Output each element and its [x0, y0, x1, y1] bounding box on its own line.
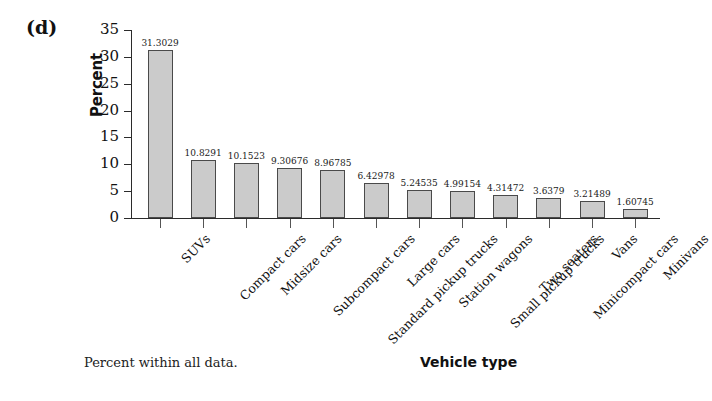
y-axis-tick: 25 — [124, 84, 131, 85]
bar-value-label: 1.60745 — [605, 197, 665, 207]
bar[interactable] — [407, 190, 432, 218]
x-axis-tick — [160, 219, 161, 228]
y-axis-tick-label: 25 — [100, 74, 119, 92]
bar-value-label: 8.96785 — [303, 158, 363, 168]
bar[interactable] — [148, 50, 173, 218]
bar-value-label: 31.3029 — [130, 38, 190, 48]
x-axis-tick — [203, 219, 204, 228]
x-axis-tick — [592, 219, 593, 228]
x-axis-line — [131, 218, 660, 219]
y-axis-tick: 35 — [124, 30, 131, 31]
bar[interactable] — [580, 201, 605, 218]
bar[interactable] — [364, 183, 389, 218]
y-axis-tick: 5 — [124, 191, 131, 192]
y-axis-tick: 10 — [124, 164, 131, 165]
x-axis-category-label: Subcompact cars — [330, 231, 418, 319]
y-axis-tick-label: 30 — [100, 47, 119, 65]
x-axis-category-label: SUVs — [178, 231, 213, 266]
y-axis-line — [131, 30, 132, 219]
y-axis-tick: 30 — [124, 57, 131, 58]
x-axis-category-label: Vans — [609, 231, 641, 263]
bar[interactable] — [450, 191, 475, 218]
x-axis-tick — [549, 219, 550, 228]
plot-area: 0510152025303531.3029SUVs10.8291Compact … — [131, 30, 660, 218]
y-axis-tick: 20 — [124, 111, 131, 112]
y-axis-tick-label: 20 — [100, 101, 119, 119]
x-axis-tick — [290, 219, 291, 228]
x-axis-tick — [333, 219, 334, 228]
x-axis-tick — [462, 219, 463, 228]
bar[interactable] — [191, 160, 216, 218]
bar[interactable] — [493, 195, 518, 218]
bar[interactable] — [623, 209, 648, 218]
bar[interactable] — [320, 170, 345, 218]
y-axis-tick-label: 0 — [109, 208, 119, 226]
y-axis-tick: 0 — [124, 218, 131, 219]
bar[interactable] — [536, 198, 561, 218]
x-axis-category-label: Two seaters — [536, 231, 600, 295]
bar[interactable] — [277, 168, 302, 218]
y-axis-tick-label: 10 — [100, 154, 119, 172]
footnote-text: Percent within all data. — [84, 355, 238, 370]
y-axis-tick-label: 35 — [100, 20, 119, 38]
y-axis-tick: 15 — [124, 137, 131, 138]
x-axis-tick — [376, 219, 377, 228]
y-axis-tick-label: 5 — [109, 181, 119, 199]
x-axis-tick — [506, 219, 507, 228]
panel-letter-label: (d) — [26, 16, 57, 38]
bar[interactable] — [234, 163, 259, 218]
y-axis-tick-label: 15 — [100, 127, 119, 145]
x-axis-tick — [419, 219, 420, 228]
x-axis-tick — [635, 219, 636, 228]
x-axis-title: Vehicle type — [420, 354, 517, 370]
x-axis-tick — [246, 219, 247, 228]
